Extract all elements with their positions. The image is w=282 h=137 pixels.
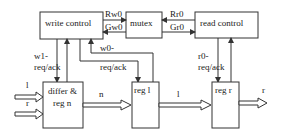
reg-r-block: reg r bbox=[212, 82, 239, 128]
reg-n-label: reg n bbox=[53, 98, 72, 108]
rw0-label: Rw0 bbox=[105, 9, 123, 19]
w0-label-2: req/ack bbox=[100, 62, 127, 72]
write-control-block: write control bbox=[40, 12, 103, 39]
handshake-diagram: write control mutex read control Rw0 Gw0… bbox=[0, 0, 282, 137]
l-data-arrow bbox=[159, 100, 211, 110]
read-control-block: read control bbox=[195, 12, 258, 38]
r0-label: r0- bbox=[198, 51, 209, 61]
l-label: l bbox=[177, 89, 180, 99]
reg-r-label: reg r bbox=[215, 85, 232, 95]
rr0-label: Rr0 bbox=[170, 9, 184, 19]
output-r-arrow bbox=[239, 98, 267, 108]
reg-l-label: reg l bbox=[134, 85, 151, 95]
output-r-label: r bbox=[262, 85, 265, 95]
read-control-label: read control bbox=[200, 18, 244, 28]
mutex-label: mutex bbox=[130, 18, 153, 28]
input-r-label: r bbox=[26, 98, 29, 108]
reg-l-block: reg l bbox=[132, 82, 159, 128]
differ-reg-n-block: differ & reg n bbox=[43, 82, 83, 128]
w0-label: w0- bbox=[100, 43, 114, 53]
input-l-arrow bbox=[15, 92, 43, 102]
w1-label: w1- bbox=[34, 51, 48, 61]
gr0-label: Gr0 bbox=[170, 22, 184, 32]
n-data-arrow bbox=[83, 100, 131, 110]
n-label: n bbox=[99, 89, 104, 99]
input-r-arrow bbox=[15, 109, 43, 119]
input-l-label: l bbox=[26, 80, 29, 90]
differ-label: differ & bbox=[48, 86, 77, 96]
r0-label-2: req/ack bbox=[198, 62, 225, 72]
write-control-label: write control bbox=[45, 18, 92, 28]
gw0-label: Gw0 bbox=[105, 22, 123, 32]
w1-label-2: req/ack bbox=[34, 62, 61, 72]
mutex-block: mutex bbox=[126, 12, 162, 38]
